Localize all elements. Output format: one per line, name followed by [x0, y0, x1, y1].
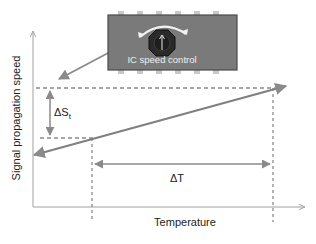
trend-line [34, 86, 286, 155]
signal-speed-temperature-diagram [0, 0, 316, 244]
ic-chip [108, 11, 237, 74]
chip-pointer-arrow [59, 52, 110, 79]
y-axis-label: Signal propagation speed [10, 56, 22, 181]
delta-t-label: ΔT [170, 172, 184, 184]
delta-s-label: ΔSt [54, 106, 71, 121]
delta-s-text: ΔS [54, 106, 69, 118]
chip-label: IC speed control [127, 54, 196, 65]
delta-s-subscript: t [69, 112, 71, 121]
x-axis-label: Temperature [154, 216, 216, 228]
